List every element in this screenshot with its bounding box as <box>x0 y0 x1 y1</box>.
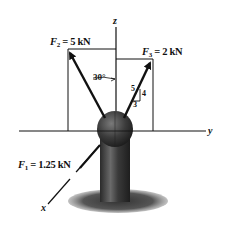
f3-value: = 2 kN <box>152 46 182 57</box>
f3-label: F3 = 2 kN <box>142 47 182 59</box>
slope-run-label: 3 <box>133 101 137 109</box>
slope-hyp-label: 5 <box>131 85 135 93</box>
angle-label: 30° <box>93 73 106 82</box>
f2-symbol: F <box>50 36 57 47</box>
f3-symbol: F <box>142 46 149 57</box>
f1-symbol: F <box>18 159 25 170</box>
post <box>100 138 130 202</box>
f2-value: = 5 kN <box>60 36 90 47</box>
f2-label: F2 = 5 kN <box>50 37 90 49</box>
z-axis-label: z <box>113 16 117 26</box>
slope-rise-label: 4 <box>142 90 146 98</box>
f2-arrow <box>70 53 105 118</box>
f1-label: F1 = 1.25 kN <box>18 160 71 172</box>
force-diagram: z y x F2 = 5 kN F3 = 2 kN F1 = 1.25 kN 3… <box>0 0 227 231</box>
f1-value: = 1.25 kN <box>28 159 71 170</box>
f3-arrow <box>124 63 150 118</box>
y-axis-label: y <box>208 126 212 136</box>
x-axis-label: x <box>41 203 46 213</box>
f1-arrow <box>80 145 100 168</box>
diagram-drawing <box>0 0 227 231</box>
